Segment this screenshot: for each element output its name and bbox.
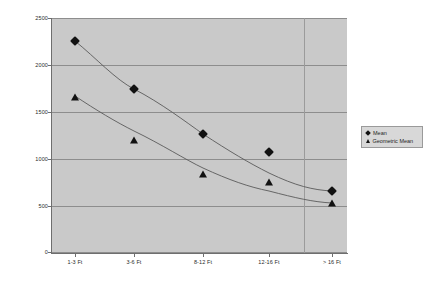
y-tick-label-500: 500 [14, 203, 48, 209]
x-tick-label-gt-16-ft: > 16 Ft [312, 259, 352, 266]
y-axis-line [51, 18, 52, 254]
y-tick-label-2500: 2500 [14, 15, 48, 21]
legend-item-mean[interactable]: Mean [365, 129, 419, 137]
y-tick-label-1000: 1000 [14, 156, 48, 162]
y-tick-label-0: 0 [14, 249, 48, 255]
x-tick-mark-8-12-ft [203, 254, 204, 257]
y-tick-label-2000: 2000 [14, 62, 48, 68]
x-tick-label-12-16-ft: 12-16 Ft [249, 259, 289, 266]
x-tick-label-3-6-ft: 3-6 Ft [114, 259, 154, 266]
series-lines [51, 18, 347, 253]
x-tick-mark-1-3-ft [75, 254, 76, 257]
y-tick-mark-1500 [48, 112, 51, 113]
y-tick-mark-0 [48, 252, 51, 253]
diamond-marker-icon [365, 130, 371, 136]
chart-legend: Mean Geometric Mean [361, 126, 423, 148]
x-tick-label-1-3-ft: 1-3 Ft [55, 259, 95, 266]
x-tick-label-8-12-ft: 8-12 Ft [183, 259, 223, 266]
legend-label-mean: Mean [373, 130, 387, 137]
x-tick-mark-12-16-ft [269, 254, 270, 257]
y-tick-mark-2500 [48, 18, 51, 19]
legend-label-geometric-mean: Geometric Mean [373, 138, 414, 145]
series-line-geometric-mean [75, 96, 332, 203]
plot-area [51, 18, 347, 253]
legend-item-geometric-mean[interactable]: Geometric Mean [365, 137, 419, 145]
triangle-marker-icon [366, 139, 370, 143]
y-tick-mark-1000 [48, 159, 51, 160]
x-tick-mark-gt-16-ft [332, 254, 333, 257]
x-tick-mark-3-6-ft [134, 254, 135, 257]
y-tick-mark-500 [48, 206, 51, 207]
x-axis-line [51, 253, 348, 254]
y-axis-tick-labels: 2500 2000 1500 1000 500 0 [8, 0, 48, 287]
chart-container: 2500 2000 1500 1000 500 0 1-3 Ft 3-6 Ft … [0, 0, 438, 287]
y-tick-label-1500: 1500 [14, 109, 48, 115]
y-tick-mark-2000 [48, 65, 51, 66]
